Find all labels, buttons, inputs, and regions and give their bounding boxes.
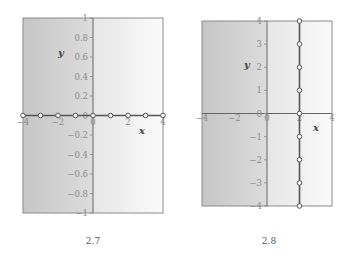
x-tick-label: 2 bbox=[125, 117, 130, 127]
y-tick-label: 3 bbox=[257, 39, 262, 49]
x-tick-label: 4 bbox=[329, 113, 334, 123]
data-point-marker bbox=[91, 113, 96, 118]
x-tick-label: 0 bbox=[264, 113, 269, 123]
data-point-marker bbox=[297, 204, 302, 209]
data-point-marker bbox=[143, 113, 148, 118]
x-axis-label: x bbox=[138, 125, 146, 136]
data-point-marker bbox=[56, 113, 61, 118]
data-point-marker bbox=[297, 134, 302, 139]
y-tick-label: 0.2 bbox=[74, 91, 88, 101]
data-point-marker bbox=[297, 42, 302, 47]
data-point-marker bbox=[126, 113, 131, 118]
figure-canvas: 10.80.60.40.20−0.2−0.4−0.6−0.8−1 −4−2024… bbox=[0, 0, 348, 258]
y-tick-label: −0.6 bbox=[67, 169, 88, 179]
data-point-marker bbox=[297, 157, 302, 162]
y-tick-label: 0.6 bbox=[74, 52, 88, 62]
y-tick-label: 4 bbox=[257, 16, 262, 26]
y-tick-label: 0.8 bbox=[74, 33, 88, 43]
plot-2-8: 43210−1−2−3−4 −4−2024 y x 2.8 bbox=[196, 16, 335, 246]
y-tick-label: 1 bbox=[83, 13, 88, 23]
figure-caption: 2.8 bbox=[262, 236, 277, 246]
x-tick-label: −4 bbox=[196, 113, 209, 123]
x-tick-label: −4 bbox=[17, 117, 30, 127]
data-point-marker bbox=[73, 113, 78, 118]
y-tick-label: −1 bbox=[249, 132, 262, 142]
data-point-marker bbox=[297, 65, 302, 70]
y-tick-label: 2 bbox=[257, 62, 262, 72]
data-point-marker bbox=[297, 111, 302, 116]
y-axis-label: y bbox=[57, 47, 65, 58]
figure-caption: 2.7 bbox=[86, 236, 101, 246]
y-tick-label: −4 bbox=[249, 201, 262, 211]
data-point-marker bbox=[21, 113, 26, 118]
x-tick-label: 0 bbox=[90, 117, 95, 127]
y-tick-label: −0.2 bbox=[67, 130, 88, 140]
y-tick-label: −3 bbox=[249, 178, 262, 188]
y-tick-label: −1 bbox=[75, 208, 88, 218]
plot-2-7: 10.80.60.40.20−0.2−0.4−0.6−0.8−1 −4−2024… bbox=[17, 13, 166, 246]
x-axis-label: x bbox=[312, 122, 320, 133]
data-point-marker bbox=[38, 113, 43, 118]
data-point-marker bbox=[161, 113, 166, 118]
x-tick-label: −2 bbox=[52, 117, 65, 127]
y-tick-label: −0.4 bbox=[67, 150, 88, 160]
x-tick-label: −2 bbox=[228, 113, 241, 123]
y-tick-label: −2 bbox=[249, 155, 262, 165]
data-point-marker bbox=[297, 181, 302, 186]
y-tick-label: 0.4 bbox=[74, 72, 88, 82]
data-series-y-equals-0 bbox=[21, 113, 166, 118]
data-point-marker bbox=[108, 113, 113, 118]
y-tick-label: −0.8 bbox=[67, 189, 88, 199]
data-point-marker bbox=[297, 88, 302, 93]
y-tick-label: 0 bbox=[257, 109, 262, 119]
y-tick-label: 1 bbox=[257, 85, 262, 95]
x-tick-label: 4 bbox=[160, 117, 165, 127]
data-point-marker bbox=[297, 19, 302, 24]
y-axis-label: y bbox=[243, 59, 251, 70]
